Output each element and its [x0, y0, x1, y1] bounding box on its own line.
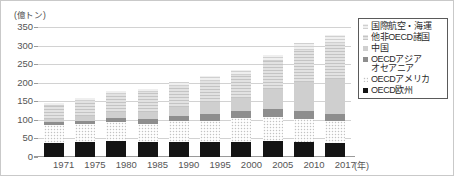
bar-segment-0 [106, 141, 126, 157]
bar-segment-1 [263, 117, 283, 141]
bar-segment-1 [75, 124, 95, 142]
legend-item: 国際航空・海運 [362, 22, 445, 31]
bar-segment-2 [263, 109, 283, 117]
bar-segment-4 [325, 43, 345, 79]
bar-1975 [75, 98, 95, 157]
bar-1990 [169, 82, 189, 157]
bar-segment-2 [294, 111, 314, 119]
y-axis-tick-label: 50 [3, 132, 33, 143]
legend-swatch-other-non-oecd [363, 35, 368, 40]
legend-swatch-oecd-europe [363, 88, 368, 93]
y-axis-tick-label: 300 [3, 40, 33, 51]
legend-swatch-international-aviation-shipping [363, 24, 368, 29]
bar-segment-0 [200, 142, 220, 157]
chart-figure: (億トン) 050100150200250300350 197119751980… [0, 0, 454, 176]
bar-segment-4 [294, 50, 314, 82]
bar-segment-0 [169, 142, 189, 157]
bar-segment-5 [294, 43, 314, 50]
bar-segment-0 [75, 142, 95, 157]
bar-1980 [106, 91, 126, 157]
bar-segment-2 [200, 114, 220, 121]
bar-2010 [294, 43, 314, 157]
legend-item: 他非OECD諸国 [362, 33, 445, 42]
bar-segment-3 [169, 107, 189, 116]
bar-1971 [44, 103, 64, 157]
bar-segment-0 [44, 143, 64, 157]
bar-1985 [138, 89, 158, 157]
legend-item-label: 国際航空・海運 [371, 22, 431, 31]
bar-segment-4 [200, 81, 220, 103]
legend-swatch-china [363, 46, 368, 51]
bar-2005 [263, 55, 283, 157]
bar-segment-0 [138, 142, 158, 157]
legend-item-label: OECD欧州 [371, 86, 413, 95]
bar-segment-4 [138, 92, 158, 111]
y-axis-unit-label: (億トン) [14, 8, 46, 20]
plot-area: 050100150200250300350 197119751980198519… [38, 27, 351, 157]
legend-swatch-oecd-asia-oceania [363, 57, 368, 62]
bar-2000 [231, 70, 251, 157]
bar-segment-3 [231, 98, 251, 111]
legend-item: OECDアメリカ [362, 75, 445, 84]
bar-segment-4 [44, 106, 64, 119]
bar-segment-1 [200, 121, 220, 143]
bar-segment-1 [294, 119, 314, 142]
legend-item-label: 他非OECD諸国 [371, 33, 430, 42]
bar-segment-1 [169, 121, 189, 141]
legend-item-label: OECDアメリカ [371, 75, 430, 84]
bar-segment-2 [325, 114, 345, 122]
bar-segment-3 [263, 89, 283, 109]
bar-segment-0 [294, 142, 314, 157]
bar-segment-3 [325, 79, 345, 114]
y-axis-tick-label: 150 [3, 95, 33, 106]
bar-segment-0 [231, 142, 251, 157]
y-axis-tick-mark [34, 64, 38, 65]
gridline [38, 27, 351, 28]
legend-item: OECD欧州 [362, 86, 445, 95]
legend-item: OECDアジア オセアニア [362, 55, 445, 73]
y-axis-tick-mark [34, 46, 38, 47]
bar-segment-4 [263, 61, 283, 89]
bar-segment-1 [138, 124, 158, 143]
bar-segment-4 [106, 94, 126, 112]
y-axis-tick-label: 100 [3, 114, 33, 125]
y-axis-tick-mark [34, 83, 38, 84]
bar-2017 [325, 35, 345, 157]
bar-1995 [200, 76, 220, 157]
bar-segment-1 [231, 118, 251, 142]
bar-segment-1 [44, 125, 64, 142]
bar-segment-1 [106, 122, 126, 141]
x-axis-unit-label: (年) [354, 159, 369, 172]
bar-segment-4 [75, 101, 95, 117]
y-axis-tick-label: 250 [3, 58, 33, 69]
bar-segment-4 [231, 75, 251, 98]
y-axis-tick-label: 200 [3, 77, 33, 88]
legend-item: 中国 [362, 44, 445, 53]
y-axis-tick-mark [34, 157, 38, 158]
bar-segment-0 [263, 141, 283, 157]
legend-item-label: 中国 [371, 44, 388, 53]
legend-item-label: OECDアジア オセアニア [371, 55, 421, 73]
bar-segment-4 [169, 86, 189, 107]
bar-segment-3 [200, 102, 220, 114]
y-axis-tick-mark [34, 138, 38, 139]
y-axis-tick-mark [34, 101, 38, 102]
legend-swatch-oecd-americas [363, 77, 368, 82]
y-axis-tick-mark [34, 27, 38, 28]
bar-segment-2 [231, 111, 251, 118]
bar-segment-1 [325, 121, 345, 143]
bar-segment-0 [325, 143, 345, 157]
y-axis-tick-label: 0 [3, 151, 33, 162]
y-axis-tick-mark [34, 120, 38, 121]
bar-segment-3 [294, 82, 314, 111]
legend: 国際航空・海運他非OECD諸国中国OECDアジア オセアニアOECDアメリカOE… [358, 18, 448, 99]
bar-segment-3 [138, 112, 158, 119]
bar-segment-5 [325, 35, 345, 42]
y-axis-tick-label: 350 [3, 21, 33, 32]
